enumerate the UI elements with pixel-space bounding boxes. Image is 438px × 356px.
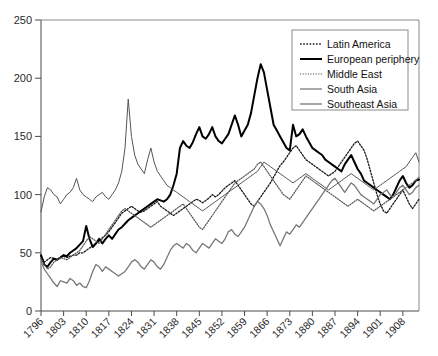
chart-legend: Latin AmericaEuropean peripheryMiddle Ea…	[292, 30, 420, 110]
y-axis-ticks: 050100150200250	[14, 14, 41, 317]
x-tick-label: 1894	[337, 315, 362, 340]
x-tick-label: 1859	[224, 315, 249, 340]
x-tick-label: 1866	[247, 315, 272, 340]
legend-label-south-asia: South Asia	[327, 83, 377, 95]
y-tick-label: 200	[14, 72, 32, 84]
y-tick-label: 150	[14, 130, 32, 142]
series-line-latin-america	[41, 141, 419, 262]
x-tick-label: 1796	[20, 315, 45, 340]
legend-label-latin-america: Latin America	[327, 38, 391, 50]
y-tick-label: 50	[20, 247, 32, 259]
x-tick-label: 1852	[201, 315, 226, 340]
series-line-southeast-asia	[41, 178, 419, 287]
x-tick-label: 1810	[66, 315, 91, 340]
x-tick-label: 1901	[360, 315, 385, 340]
x-tick-label: 1887	[314, 315, 339, 340]
x-tick-label: 1880	[292, 315, 317, 340]
legend-label-middle-east: Middle East	[327, 68, 382, 80]
x-tick-label: 1845	[179, 315, 204, 340]
x-tick-label: 1803	[43, 315, 68, 340]
y-tick-label: 100	[14, 189, 32, 201]
legend-label-european-periphery: European periphery	[327, 53, 420, 65]
y-tick-label: 250	[14, 14, 32, 26]
x-tick-label: 1908	[382, 315, 407, 340]
x-tick-label: 1831	[133, 315, 158, 340]
x-axis-ticks: 1796180318101817182418311838184518521859…	[20, 311, 407, 340]
x-tick-label: 1838	[156, 315, 181, 340]
x-tick-label: 1824	[111, 315, 136, 340]
legend-label-southeast-asia: Southeast Asia	[327, 98, 397, 110]
y-tick-label: 0	[26, 305, 32, 317]
chart-canvas: 050100150200250 179618031810181718241831…	[0, 0, 438, 356]
x-tick-label: 1873	[269, 315, 294, 340]
x-tick-label: 1817	[88, 315, 113, 340]
line-chart: 050100150200250 179618031810181718241831…	[0, 0, 438, 356]
